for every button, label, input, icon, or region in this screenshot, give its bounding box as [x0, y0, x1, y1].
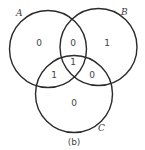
- region-c-only: 0: [71, 98, 77, 108]
- set-circle-c: [36, 56, 113, 133]
- set-label-b: B: [120, 7, 128, 17]
- region-a-and-b-and-c: 1: [70, 57, 76, 67]
- set-label-a: A: [15, 8, 23, 18]
- region-b-and-c: 0: [89, 70, 95, 80]
- figure-caption: (b): [68, 137, 81, 147]
- region-a-only: 0: [36, 38, 42, 48]
- venn-diagram: A B C 0 0 1 1 1 0 0 (b): [0, 0, 145, 150]
- region-b-only: 1: [104, 38, 110, 48]
- region-a-and-b: 0: [70, 38, 76, 48]
- set-circle-a: [10, 11, 87, 88]
- region-a-and-c: 1: [51, 70, 57, 80]
- set-label-c: C: [98, 123, 105, 133]
